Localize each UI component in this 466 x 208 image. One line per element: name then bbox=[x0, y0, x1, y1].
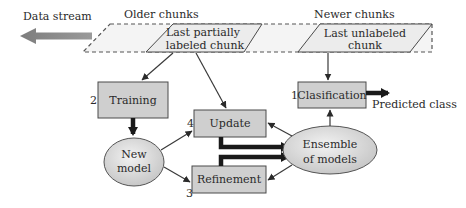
update-step: Update 4 bbox=[187, 110, 266, 137]
refinement-step: Refinement 3 bbox=[186, 166, 266, 200]
arrow-new-model-to-refinement bbox=[164, 167, 190, 182]
arrow-new-model-to-update bbox=[161, 131, 192, 150]
update-step-number: 4 bbox=[187, 117, 194, 130]
unlabeled-chunk: Last unlabeled chunk bbox=[298, 24, 432, 52]
arrow-chunk-to-update bbox=[196, 53, 226, 108]
arrow-ensemble-to-update bbox=[268, 123, 292, 136]
unlabeled-chunk-line2: chunk bbox=[348, 39, 382, 52]
stream-ensemble-diagram: Data stream Older chunks Newer chunks La… bbox=[0, 0, 466, 208]
arrow-update-to-ensemble bbox=[221, 137, 288, 147]
update-label: Update bbox=[210, 117, 251, 130]
partially-labeled-chunk-line2: labeled chunk bbox=[166, 39, 245, 52]
newer-chunks-label: Newer chunks bbox=[314, 8, 395, 21]
arrow-chunk-to-training bbox=[142, 53, 173, 80]
older-chunks-label: Older chunks bbox=[124, 8, 199, 21]
refinement-label: Refinement bbox=[197, 173, 262, 186]
ensemble-line1: Ensemble bbox=[303, 138, 358, 151]
new-model-node: New model bbox=[104, 138, 164, 186]
ensemble-line2: of models bbox=[303, 153, 357, 166]
data-stream-label: Data stream bbox=[23, 10, 92, 23]
training-step: Training 2 bbox=[90, 82, 168, 118]
training-step-number: 2 bbox=[90, 94, 97, 107]
classification-step: Clasification 1 bbox=[291, 82, 367, 108]
arrow-ensemble-to-refinement bbox=[268, 165, 292, 180]
new-model-line2: model bbox=[117, 162, 152, 175]
ensemble-node: Ensemble of models bbox=[283, 126, 377, 174]
arrow-refinement-to-ensemble bbox=[221, 157, 288, 166]
predicted-class-label: Predicted class bbox=[372, 98, 457, 111]
refinement-step-number: 3 bbox=[186, 187, 193, 200]
classification-label: Clasification bbox=[297, 89, 366, 102]
training-label: Training bbox=[109, 94, 156, 107]
partially-labeled-chunk-line1: Last partially bbox=[166, 26, 241, 39]
data-stream-arrow-icon bbox=[20, 28, 92, 44]
new-model-line1: New bbox=[121, 148, 147, 161]
unlabeled-chunk-line1: Last unlabeled bbox=[324, 27, 406, 40]
classification-step-number: 1 bbox=[291, 89, 298, 102]
